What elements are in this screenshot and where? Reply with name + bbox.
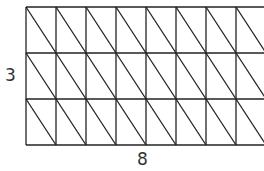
grid-diagonal-line <box>86 7 116 53</box>
grid-diagonal-line <box>206 99 236 145</box>
grid-diagonal-line <box>176 99 206 145</box>
grid-diagonal-line <box>236 99 264 145</box>
grid-diagonal-line <box>86 53 116 99</box>
grid-diagonal-line <box>116 7 146 53</box>
grid-diagonal-line <box>26 7 56 53</box>
grid-diagonal-line <box>146 53 176 99</box>
grid-diagonal-line <box>206 7 236 53</box>
grid-diagonal-line <box>116 99 146 145</box>
grid-diagonal-line <box>116 53 146 99</box>
grid-diagonal-line <box>86 99 116 145</box>
grid-diagonal-line <box>146 7 176 53</box>
grid-diagonal-line <box>206 53 236 99</box>
grid-diagonal-line <box>56 99 86 145</box>
grid-diagonal-line <box>146 99 176 145</box>
grid-diagonal-line <box>26 53 56 99</box>
grid-diagonal-line <box>176 53 206 99</box>
grid-diagonal-line <box>236 7 264 53</box>
triangle-grid <box>0 0 264 171</box>
grid-diagonal-line <box>56 7 86 53</box>
height-label: 3 <box>5 67 16 84</box>
grid-diagonal-line <box>176 7 206 53</box>
grid-diagonal-line <box>56 53 86 99</box>
width-label: 8 <box>137 151 148 168</box>
grid-diagonal-line <box>26 99 56 145</box>
grid-diagonal-line <box>236 53 264 99</box>
